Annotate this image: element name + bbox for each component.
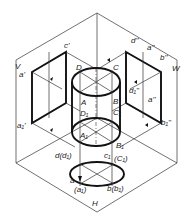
label-A1: A₁	[79, 131, 88, 140]
label-d-double-prime: d''	[131, 36, 139, 45]
label-w-plane: W	[172, 64, 181, 73]
label-C: C	[113, 63, 119, 72]
label-C1: C₁	[113, 108, 122, 117]
label-A: A	[80, 98, 86, 107]
label-a1-paren: (a₁)	[74, 185, 87, 194]
label-a-double-prime-top: a''	[147, 43, 155, 52]
label-b-b1: b(b₁)	[107, 184, 124, 193]
projection-diagram: V a' c' a₁' d'' a'' b'' W d₁'' a'' b₁'' …	[0, 0, 192, 223]
label-B1: B₁	[116, 141, 124, 150]
label-a1-prime: a₁'	[17, 121, 26, 130]
label-D1: D₁	[80, 109, 89, 118]
label-a: a	[70, 176, 75, 185]
label-h-plane: H	[92, 199, 98, 208]
label-a-prime: a'	[19, 70, 25, 79]
label-c-prime: c'	[64, 41, 70, 50]
label-b1-double-prime: b₁''	[161, 118, 172, 127]
label-d-d1: d(d₁)	[55, 151, 72, 160]
label-d1-double-prime: d₁''	[129, 86, 140, 95]
label-C1-paren: (C₁)	[114, 154, 128, 163]
label-a-double-prime-mid: a''	[148, 95, 156, 104]
label-b-double-prime: b''	[160, 53, 168, 62]
label-D: D	[76, 63, 82, 72]
label-B: B	[113, 97, 119, 106]
label-c1: c₁	[104, 151, 111, 160]
